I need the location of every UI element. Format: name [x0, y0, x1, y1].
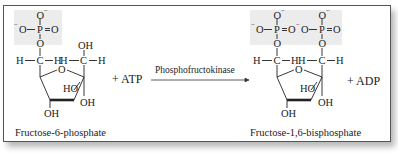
svg-text:−: − — [251, 21, 255, 29]
svg-text:−: − — [281, 7, 285, 15]
svg-text:−: − — [296, 21, 300, 29]
svg-text:P: P — [274, 24, 280, 35]
svg-text:O: O — [301, 24, 309, 35]
svg-text:O: O — [295, 64, 303, 75]
svg-text:OH: OH — [80, 97, 96, 108]
svg-text:C: C — [80, 55, 87, 66]
svg-text:H: H — [336, 55, 344, 66]
svg-text:HO: HO — [63, 83, 79, 94]
svg-text:P: P — [319, 24, 325, 35]
svg-text:−: − — [326, 7, 330, 15]
svg-text:OH: OH — [78, 40, 94, 51]
svg-text:H: H — [16, 55, 24, 66]
svg-text:C: C — [37, 55, 44, 66]
svg-text:OH: OH — [44, 108, 60, 119]
svg-text:C: C — [319, 55, 326, 66]
reactant-name: Fructose-6-phosphate — [15, 127, 106, 138]
svg-text:C: C — [274, 55, 281, 66]
atp-label: + ATP — [112, 72, 142, 87]
svg-text:O: O — [333, 24, 341, 35]
svg-text:O: O — [51, 24, 59, 35]
svg-text:O: O — [37, 38, 45, 49]
svg-text:H: H — [253, 55, 261, 66]
svg-text:O: O — [319, 38, 327, 49]
svg-text:O: O — [19, 24, 27, 35]
svg-text:HO: HO — [300, 83, 316, 94]
product-name: Fructose-1,6-bisphosphate — [250, 127, 361, 138]
svg-text:P: P — [37, 24, 43, 35]
fructose-6-phosphate-labels: O− −O P O O H C H H C H OH O HO OH OH — [14, 7, 106, 119]
svg-text:−: − — [44, 7, 48, 15]
svg-text:O: O — [256, 24, 264, 35]
svg-text:O: O — [288, 24, 296, 35]
svg-text:−: − — [14, 21, 18, 29]
fructose-1-6-bisphosphate-labels: O− −O P O O O− −O P O O H C H H C H O HO… — [251, 7, 344, 119]
svg-text:OH: OH — [281, 108, 297, 119]
svg-text:H: H — [98, 55, 106, 66]
svg-text:O: O — [58, 64, 66, 75]
svg-text:OH: OH — [318, 97, 334, 108]
reaction-arrow — [151, 78, 249, 82]
enzyme-label: Phosphofructokinase — [155, 65, 235, 75]
svg-text:O: O — [274, 38, 282, 49]
adp-label: + ADP — [347, 74, 380, 89]
